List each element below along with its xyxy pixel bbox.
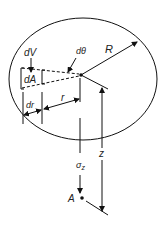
label-sigma: σz bbox=[76, 160, 85, 171]
label-z: z bbox=[98, 148, 104, 159]
label-A: A bbox=[67, 193, 75, 204]
stress-diagram: dV dA dθ R dr r z σz A bbox=[0, 0, 161, 228]
label-r: r bbox=[61, 92, 65, 103]
dr-arrow bbox=[24, 110, 41, 115]
label-dr: dr bbox=[26, 100, 35, 110]
label-dA: dA bbox=[24, 74, 37, 85]
dtheta-arrow bbox=[68, 58, 76, 72]
perspective-line bbox=[81, 75, 108, 89]
label-dV: dV bbox=[24, 47, 38, 58]
point-A bbox=[80, 196, 84, 200]
point-A-perspective-line bbox=[86, 201, 108, 215]
label-R: R bbox=[105, 43, 113, 55]
label-dtheta: dθ bbox=[76, 46, 86, 56]
dA-bracket-right bbox=[42, 70, 45, 84]
